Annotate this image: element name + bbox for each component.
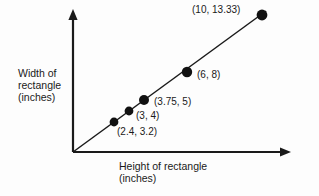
trend-line <box>73 11 266 152</box>
x-axis-label-line-2: (inches) <box>119 172 207 184</box>
data-point-marker <box>125 107 134 116</box>
data-point-label: (3.75, 5) <box>154 96 191 108</box>
data-point-label: (10, 13.33) <box>192 4 240 16</box>
y-axis-label-line-1: Width of <box>18 67 78 79</box>
axes-group <box>68 9 291 157</box>
data-point-marker <box>257 10 268 21</box>
data-point-marker <box>139 95 149 105</box>
data-line-group <box>73 11 266 152</box>
chart-figure: Width of rectangle (inches) Height of re… <box>0 0 319 196</box>
y-axis-label-line-2: rectangle <box>18 79 78 91</box>
x-axis-label: Height of rectangle (inches) <box>119 160 207 184</box>
data-point-marker <box>182 67 192 77</box>
x-axis-arrowhead-icon <box>280 147 291 156</box>
data-point-label: (3, 4) <box>136 110 159 122</box>
y-axis-label: Width of rectangle (inches) <box>18 67 78 103</box>
data-point-label: (6, 8) <box>197 69 220 81</box>
data-point-label: (2.4, 3.2) <box>117 126 157 138</box>
y-axis-label-line-3: (inches) <box>18 91 78 103</box>
x-axis-label-line-1: Height of rectangle <box>119 160 207 172</box>
y-axis-arrowhead-icon <box>68 9 77 20</box>
